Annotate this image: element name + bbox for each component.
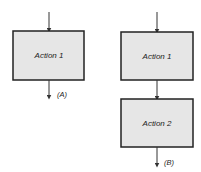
flowchart-canvas: Action 1 (A) Action 1 Action 2 (B) [0, 0, 201, 172]
action2-label-b: Action 2 [142, 119, 172, 128]
output-label-b: (B) [164, 158, 175, 167]
action1-label-b: Action 1 [142, 52, 172, 61]
diagram-a: Action 1 (A) [13, 12, 84, 99]
action1-label-a: Action 1 [34, 51, 64, 60]
diagram-b: Action 1 Action 2 (B) [121, 12, 193, 167]
output-label-a: (A) [57, 90, 68, 99]
